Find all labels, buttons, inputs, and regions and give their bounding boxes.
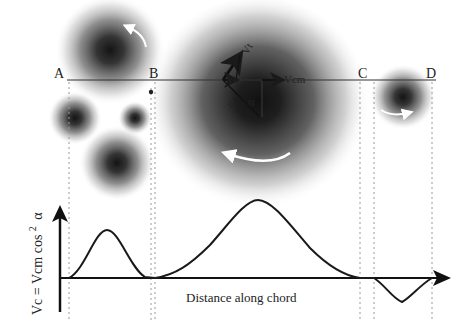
vortices [48, 0, 436, 213]
point-label-b: B [149, 66, 158, 81]
svg-text:Vc = Vcm cos 2 α: Vc = Vcm cos 2 α [24, 212, 45, 315]
alpha-label: α [248, 94, 255, 109]
y-label-exponent: 2 [27, 226, 38, 231]
point-label-a: A [54, 66, 65, 81]
point-marker [149, 90, 153, 94]
lower-left-vortex [79, 125, 155, 201]
point-label-c: C [358, 66, 367, 81]
large-central-vortex [146, 0, 370, 213]
top-left-vortex [55, 0, 165, 105]
vortex-chord-diagram: A B C D Vt Vc Vcm r α Vc = Vcm cos 2 [0, 0, 476, 331]
velocity-curve [69, 200, 432, 302]
point-label-d: D [426, 66, 436, 81]
y-axis-label: Vc = Vcm cos 2 α [24, 212, 45, 315]
vcm-label: Vcm [284, 73, 306, 85]
y-label-alpha: α [30, 212, 45, 220]
y-label-main: Vc = Vcm cos [30, 235, 45, 315]
vc-label: Vc [226, 73, 239, 85]
x-axis-label: Distance along chord [186, 290, 297, 305]
